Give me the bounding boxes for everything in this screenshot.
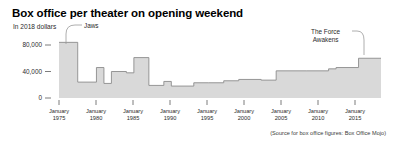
leader-line-jaws: [66, 25, 82, 44]
source-note: (Source for box office figures: Box Offi…: [270, 130, 386, 136]
y-axis-ticks: [45, 45, 51, 98]
plot-area: [0, 0, 399, 146]
leader-line-force-awakens: [352, 31, 364, 55]
x-axis-ticks: [59, 100, 355, 105]
step-area-series: [59, 42, 381, 98]
chart-figure: Box office per theater on opening weeken…: [0, 0, 399, 146]
